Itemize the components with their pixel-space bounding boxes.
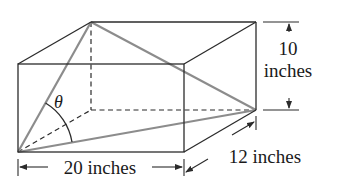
width-label: 12 inches xyxy=(229,146,301,167)
length-label: 20 inches xyxy=(64,157,136,178)
width-arrow-front xyxy=(186,159,208,172)
top-right-edge xyxy=(184,22,256,64)
width-dimension: 12 inches xyxy=(186,116,301,172)
diagram-canvas: θ 10 inches 20 inches 12 inches xyxy=(0,0,340,183)
face-diagonal-back xyxy=(91,22,256,110)
face-diagonal-left xyxy=(18,22,91,152)
height-value-label: 10 xyxy=(279,38,298,59)
width-arrow-back xyxy=(232,122,254,135)
height-dimension: 10 inches xyxy=(263,22,312,110)
theta-label: θ xyxy=(54,92,63,112)
diagonal-lines xyxy=(18,22,256,152)
box-diagram: θ 10 inches 20 inches 12 inches xyxy=(0,0,340,183)
height-unit-label: inches xyxy=(264,60,313,81)
length-dimension: 20 inches xyxy=(18,157,184,178)
